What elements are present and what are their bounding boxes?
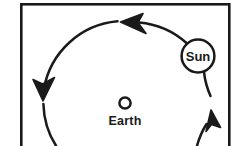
sun-earth-orbit-diagram: Sun Earth [0, 0, 241, 146]
sun-label: Sun [186, 49, 211, 64]
earth-circle [119, 97, 130, 108]
diagram-canvas: Sun Earth [0, 0, 241, 146]
sun-body: Sun [182, 40, 215, 73]
earth-label: Earth [109, 114, 142, 128]
